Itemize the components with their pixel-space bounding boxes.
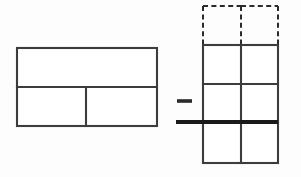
left-rectangle-model — [17, 48, 157, 126]
right-grid-model — [203, 6, 278, 163]
dashed-cell-top-left — [203, 6, 241, 45]
area-model-diagram — [0, 0, 301, 177]
diagram-canvas — [0, 0, 301, 177]
dashed-cell-top-right — [241, 6, 278, 45]
